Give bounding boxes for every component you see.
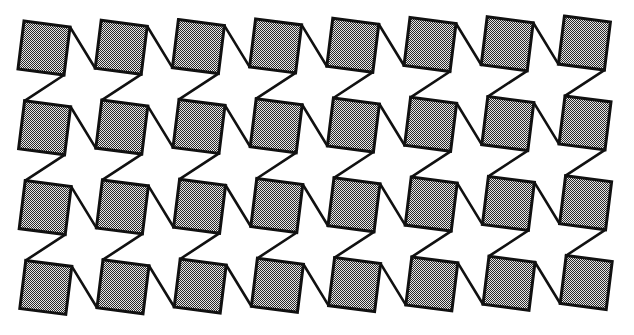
horizontal-connector	[149, 266, 174, 307]
vertical-connector	[25, 75, 64, 101]
square-tile	[96, 100, 148, 154]
vertical-connector	[180, 233, 219, 259]
vertical-connector	[102, 74, 141, 100]
square-tile	[483, 256, 535, 310]
horizontal-connector	[379, 104, 404, 145]
horizontal-connector	[70, 27, 95, 68]
square-tile	[329, 258, 381, 312]
square-tile	[19, 181, 71, 235]
vertical-connector	[334, 152, 373, 178]
square-tile	[328, 178, 380, 232]
horizontal-connector	[458, 263, 483, 304]
square-tile	[96, 180, 148, 234]
square-tile	[327, 18, 379, 72]
square-tiles	[18, 16, 612, 314]
vertical-connector	[488, 151, 527, 177]
vertical-connector	[257, 153, 296, 179]
square-tile	[406, 257, 458, 311]
square-tile	[405, 97, 457, 151]
vertical-connector	[26, 235, 65, 261]
vertical-connector	[103, 234, 142, 260]
horizontal-connector	[224, 26, 249, 67]
horizontal-connector	[303, 185, 328, 226]
horizontal-connector	[148, 186, 173, 227]
vertical-connector	[180, 153, 219, 179]
vertical-connector	[335, 232, 374, 258]
vertical-connector	[566, 230, 605, 256]
horizontal-connector	[72, 266, 97, 307]
horizontal-connector	[225, 105, 250, 146]
square-tile	[559, 96, 611, 150]
vertical-connector	[179, 74, 218, 100]
vertical-connector	[102, 154, 141, 180]
vertical-connector	[566, 150, 605, 176]
horizontal-connector	[456, 24, 481, 65]
square-tile	[560, 176, 612, 230]
horizontal-connector	[302, 25, 327, 66]
square-tile	[482, 97, 534, 151]
square-tile	[250, 99, 302, 153]
horizontal-connector	[457, 183, 482, 224]
vertical-connector	[411, 72, 450, 98]
square-tile	[481, 17, 533, 71]
square-tile	[560, 256, 612, 310]
horizontal-connector	[148, 106, 173, 147]
horizontal-connector	[381, 264, 406, 305]
square-tile	[404, 18, 456, 72]
vertical-connector	[411, 151, 450, 177]
square-tile	[174, 179, 226, 233]
vertical-connector	[565, 70, 604, 96]
horizontal-connector	[534, 182, 559, 223]
square-tile	[174, 259, 226, 313]
square-tile	[173, 99, 225, 153]
horizontal-connector	[226, 265, 251, 306]
square-tile	[250, 19, 302, 73]
horizontal-connector	[302, 105, 327, 146]
vertical-connector	[333, 72, 372, 98]
vertical-connector	[488, 71, 527, 97]
square-tile	[95, 20, 147, 74]
vertical-connector	[489, 230, 528, 256]
square-tile	[482, 176, 534, 230]
horizontal-connector	[535, 262, 560, 303]
vertical-connector	[256, 73, 295, 99]
square-tile	[172, 20, 224, 74]
square-tile	[20, 260, 72, 314]
vertical-connector	[25, 155, 64, 181]
horizontal-connector	[380, 184, 405, 225]
square-tile	[327, 98, 379, 152]
square-tile	[19, 101, 71, 155]
square-tile	[405, 177, 457, 231]
horizontal-connector	[147, 26, 172, 67]
horizontal-connector	[379, 24, 404, 65]
horizontal-connector	[71, 107, 96, 148]
square-tile	[251, 179, 303, 233]
tessellation-diagram	[0, 0, 634, 335]
vertical-connector	[257, 233, 296, 259]
vertical-connector	[412, 231, 451, 257]
horizontal-connector	[533, 23, 558, 64]
horizontal-connector	[534, 103, 559, 144]
square-tile	[18, 21, 70, 75]
square-tile	[558, 16, 610, 70]
horizontal-connector	[457, 103, 482, 144]
square-tile	[97, 260, 149, 314]
horizontal-connector	[226, 185, 251, 226]
horizontal-connector	[303, 264, 328, 305]
horizontal-connector	[71, 187, 96, 228]
square-tile	[251, 258, 303, 312]
